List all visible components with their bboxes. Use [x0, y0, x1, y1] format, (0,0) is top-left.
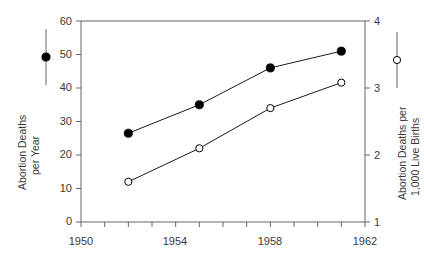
chart-figure: 60 50 40 30 20 10 0 4 3 2 1 1950 1954 19… — [0, 0, 424, 271]
left-axis-title-line1: Abortion Deaths — [16, 115, 29, 190]
data-point-open — [338, 79, 345, 86]
right-ytick-3: 3 — [374, 82, 398, 94]
right-ytick-1: 1 — [374, 216, 398, 228]
left-ytick-60: 60 — [48, 15, 72, 27]
right-axis-title-line2: 1,000 Live Births — [409, 118, 422, 196]
series-line-1 — [128, 83, 341, 182]
data-point-filled — [266, 64, 274, 72]
right-axis-title-line1: Abortion Deaths per — [396, 107, 409, 200]
left-ytick-50: 50 — [48, 48, 72, 60]
left-ytick-30: 30 — [48, 115, 72, 127]
xtick-1950: 1950 — [57, 235, 105, 247]
xtick-1958: 1958 — [246, 235, 294, 247]
left-ytick-0: 0 — [48, 215, 72, 227]
left-ytick-10: 10 — [48, 182, 72, 194]
right-ytick-4: 4 — [374, 15, 398, 27]
left-axis-title-line2: per Year — [29, 136, 42, 175]
left-ytick-20: 20 — [48, 148, 72, 160]
xtick-1954: 1954 — [151, 235, 199, 247]
open-circle-marker — [393, 56, 400, 63]
chart-canvas — [0, 0, 424, 271]
series-line-0 — [128, 51, 341, 133]
data-point-open — [267, 105, 274, 112]
right-ytick-2: 2 — [374, 149, 398, 161]
data-point-open — [196, 145, 203, 152]
left-ytick-40: 40 — [48, 81, 72, 93]
data-point-filled — [124, 129, 132, 137]
xtick-1962: 1962 — [341, 235, 389, 247]
data-point-filled — [337, 47, 345, 55]
data-point-open — [125, 178, 132, 185]
data-point-filled — [195, 101, 203, 109]
